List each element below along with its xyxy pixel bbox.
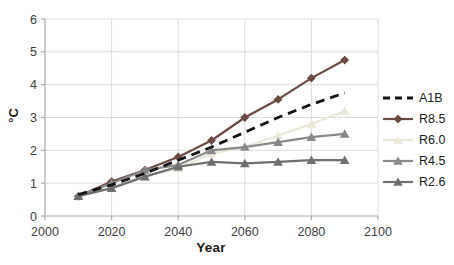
chart-legend: A1BR8.5R6.0R4.5R2.6: [382, 87, 445, 192]
series-R2.6: [74, 156, 350, 201]
legend-label: R8.5: [419, 112, 445, 126]
series-line-R8.5: [78, 60, 344, 196]
legend-swatch-R8.5: [382, 113, 414, 125]
y-tick-label: 4: [30, 78, 37, 92]
y-tick-label: 1: [30, 177, 37, 191]
legend-swatch-R2.6: [382, 176, 414, 188]
legend-item-R6.0: R6.0: [382, 129, 445, 150]
legend-label: R2.6: [419, 175, 445, 189]
legend-item-R2.6: R2.6: [382, 171, 445, 192]
y-tick-label: 3: [30, 111, 37, 125]
x-tick-label: 2080: [297, 225, 325, 239]
chart-canvas: 0123456200020202040206020802100 °C Year …: [0, 0, 454, 265]
legend-item-R4.5: R4.5: [382, 150, 445, 171]
y-tick-label: 5: [30, 45, 37, 59]
marker-triangle: [340, 106, 350, 114]
legend-marker: [394, 114, 403, 123]
x-tick-label: 2040: [164, 225, 192, 239]
legend-item-A1B: A1B: [382, 87, 445, 108]
y-tick-label: 2: [30, 144, 37, 158]
legend-label: A1B: [419, 91, 443, 105]
x-axis-title: Year: [26, 240, 396, 255]
legend-item-R8.5: R8.5: [382, 108, 445, 129]
legend-label: R4.5: [419, 154, 445, 168]
legend-swatch-A1B: [382, 92, 414, 104]
x-tick-label: 2100: [364, 225, 392, 239]
marker-diamond: [340, 56, 349, 65]
x-tick-label: 2020: [98, 225, 126, 239]
y-tick-label: 0: [30, 210, 37, 224]
series-R8.5: [74, 56, 349, 201]
legend-swatch-R6.0: [382, 134, 414, 146]
legend-swatch-R4.5: [382, 155, 414, 167]
y-tick-label: 6: [30, 13, 37, 27]
y-axis-title: °C: [6, 108, 21, 123]
legend-label: R6.0: [419, 133, 445, 147]
x-tick-label: 2060: [231, 225, 259, 239]
x-tick-label: 2000: [31, 225, 59, 239]
